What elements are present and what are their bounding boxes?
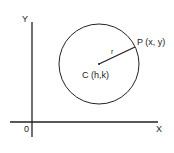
circle-diagram: Y 0 X P (x, y) r C (h,k) (0, 0, 174, 153)
radius-line (99, 47, 135, 64)
origin-label: 0 (24, 124, 29, 134)
center-point (98, 63, 100, 65)
point-p-label: P (x, y) (137, 37, 165, 47)
x-axis-label: X (156, 124, 162, 134)
y-axis-label: Y (22, 14, 28, 24)
center-label: C (h,k) (82, 70, 109, 80)
radius-label: r (111, 48, 114, 55)
